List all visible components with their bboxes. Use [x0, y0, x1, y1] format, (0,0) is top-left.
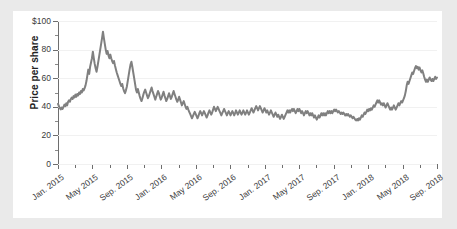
- x-tick-label-5: Sep. 2016: [193, 172, 238, 208]
- price-line-series: [58, 21, 437, 164]
- screenshot-root: Price per share 020406080$100 Jan. 2015M…: [0, 0, 457, 229]
- plot-area: [58, 21, 437, 164]
- x-tick-label-7: May 2017: [262, 172, 307, 208]
- x-tick-4: [196, 165, 197, 169]
- x-tick-2: [127, 165, 128, 169]
- x-tick-label-8: Sep. 2017: [297, 172, 342, 208]
- y-tick-label-20: 20: [13, 131, 51, 140]
- x-minor-tick-34: [351, 165, 352, 168]
- x-tick-label-0: Jan. 2015: [21, 172, 66, 208]
- x-tick-label-9: Jan. 2018: [331, 172, 376, 208]
- x-tick-label-2: Sep. 2015: [90, 172, 135, 208]
- x-tick-5: [230, 165, 231, 169]
- x-tick-label-10: May 2018: [366, 172, 411, 208]
- x-tick-0: [58, 165, 59, 169]
- x-minor-tick-42: [420, 165, 421, 168]
- y-axis-title: Price per share: [29, 18, 40, 128]
- x-tick-6: [265, 165, 266, 169]
- x-tick-11: [437, 165, 438, 169]
- x-tick-7: [299, 165, 300, 169]
- x-tick-label-3: Jan. 2016: [125, 172, 170, 208]
- x-tick-label-6: Jan. 2017: [228, 172, 273, 208]
- gridline-0: [58, 164, 437, 165]
- x-tick-8: [334, 165, 335, 169]
- x-tick-1: [92, 165, 93, 169]
- x-tick-9: [368, 165, 369, 169]
- x-minor-tick-2: [75, 165, 76, 168]
- x-tick-3: [161, 165, 162, 169]
- x-tick-label-1: May 2015: [56, 172, 101, 208]
- x-tick-label-4: May 2016: [159, 172, 204, 208]
- x-minor-tick-10: [144, 165, 145, 168]
- x-tick-label-11: Sep. 2018: [400, 172, 445, 208]
- x-minor-tick-26: [282, 165, 283, 168]
- x-minor-tick-38: [385, 165, 386, 168]
- x-minor-tick-18: [213, 165, 214, 168]
- x-minor-tick-22: [248, 165, 249, 168]
- y-tick-label-0: 0: [13, 160, 51, 169]
- chart-card: Price per share 020406080$100 Jan. 2015M…: [13, 11, 442, 218]
- x-minor-tick-30: [316, 165, 317, 168]
- x-minor-tick-14: [179, 165, 180, 168]
- x-tick-10: [403, 165, 404, 169]
- x-minor-tick-6: [110, 165, 111, 168]
